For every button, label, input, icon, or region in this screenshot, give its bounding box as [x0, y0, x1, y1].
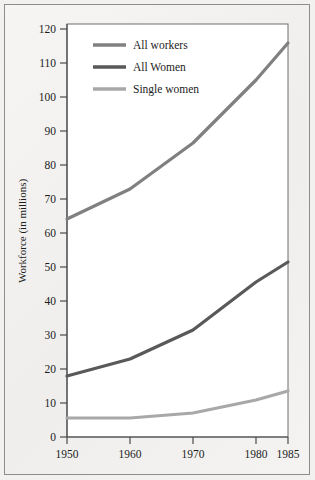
legend-label-all-workers: All workers: [133, 39, 188, 51]
y-tick-label: 90: [45, 125, 57, 137]
y-tick-label: 30: [45, 329, 57, 341]
x-tick-label: 1960: [119, 448, 142, 460]
y-tick-label: 100: [39, 91, 57, 103]
y-axis-tick-labels: 0 10 20 30 40 50 60 70 80 90 100 110 120: [39, 23, 57, 443]
x-axis-tick-labels: 1950 1960 1970 1980 1985: [56, 448, 300, 460]
x-tick-label: 1970: [182, 448, 205, 460]
line-chart: 0 10 20 30 40 50 60 70 80 90 100 110 120…: [0, 0, 315, 480]
y-tick-label: 70: [45, 193, 57, 205]
figure-container: 0 10 20 30 40 50 60 70 80 90 100 110 120…: [0, 0, 315, 480]
legend-label-all-women: All Women: [133, 61, 186, 73]
legend-label-single-women: Single women: [133, 83, 199, 96]
y-axis-title: Workforce (in millions): [16, 179, 29, 284]
y-tick-label: 80: [45, 159, 57, 171]
y-tick-label: 40: [45, 295, 57, 307]
x-tick-label: 1950: [56, 448, 79, 460]
x-axis-ticks: [67, 437, 288, 444]
y-tick-label: 50: [45, 261, 57, 273]
y-tick-label: 10: [45, 397, 57, 409]
x-tick-label: 1980: [245, 448, 268, 460]
y-tick-label: 60: [45, 227, 57, 239]
y-tick-label: 20: [45, 363, 57, 375]
x-tick-label: 1985: [277, 448, 300, 460]
y-tick-label: 0: [50, 431, 56, 443]
y-tick-label: 120: [39, 23, 57, 35]
y-tick-label: 110: [39, 57, 56, 69]
